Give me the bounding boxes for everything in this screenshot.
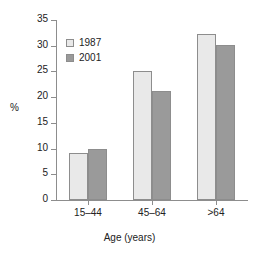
bar-chart: 05101520253035 % 15–4445–64>64 Age (year… bbox=[0, 0, 259, 256]
bar bbox=[88, 149, 107, 200]
legend-label: 1987 bbox=[79, 37, 101, 48]
y-axis-tick-label: 5 bbox=[22, 167, 48, 178]
x-axis-category-label: 15–44 bbox=[74, 207, 102, 218]
y-axis-tick-label: 30 bbox=[22, 39, 48, 50]
y-axis-tick-label: 0 bbox=[22, 193, 48, 204]
legend-swatch-icon bbox=[66, 54, 74, 62]
legend-item: 2001 bbox=[66, 51, 101, 64]
x-axis-category-label: 45–64 bbox=[138, 207, 166, 218]
y-axis-tick-label: 10 bbox=[22, 142, 48, 153]
x-axis-tick bbox=[216, 201, 217, 205]
legend-item: 1987 bbox=[66, 36, 101, 49]
legend-swatch-icon bbox=[66, 39, 74, 47]
legend: 19872001 bbox=[66, 36, 101, 66]
y-axis-title: % bbox=[10, 102, 19, 113]
bar bbox=[69, 153, 88, 200]
bar bbox=[133, 71, 152, 200]
y-axis-tick-label: 20 bbox=[22, 90, 48, 101]
x-axis-title: Age (years) bbox=[0, 232, 259, 243]
y-axis-tick-label: 35 bbox=[22, 13, 48, 24]
bar bbox=[152, 91, 171, 200]
legend-label: 2001 bbox=[79, 52, 101, 63]
x-axis-tick bbox=[152, 201, 153, 205]
x-axis-tick bbox=[88, 201, 89, 205]
y-axis-tick bbox=[51, 200, 56, 201]
bar bbox=[197, 34, 216, 200]
y-axis-tick-label: 15 bbox=[22, 116, 48, 127]
x-axis-category-label: >64 bbox=[208, 207, 225, 218]
bar bbox=[216, 45, 235, 200]
y-axis-tick-label: 25 bbox=[22, 64, 48, 75]
